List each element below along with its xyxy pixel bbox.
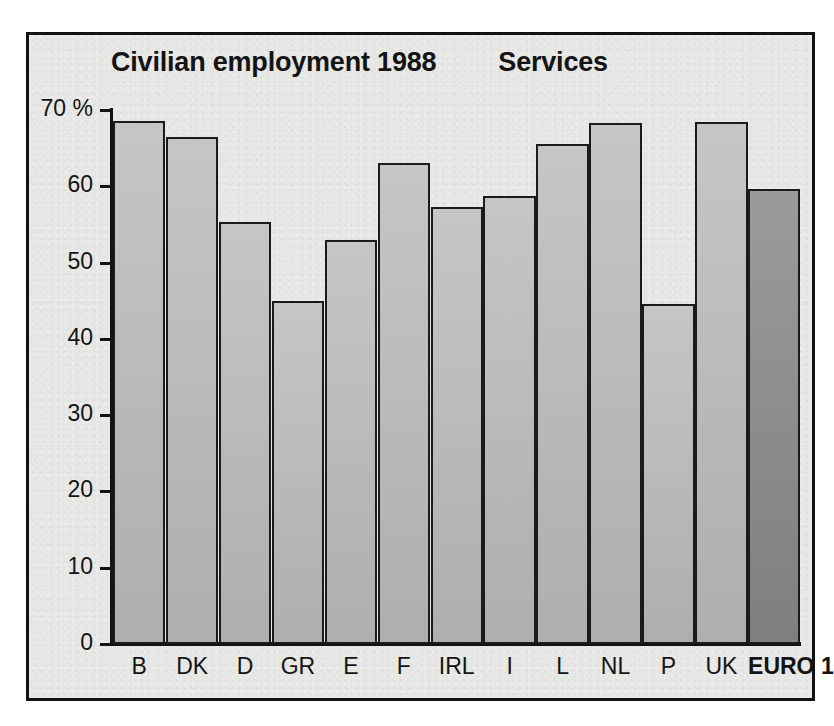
bar-uk (695, 122, 747, 644)
y-tick-label-70: 70 % (41, 95, 93, 122)
x-label-gr: GR (272, 653, 324, 680)
y-tick-label-40: 40 (67, 324, 93, 351)
x-label-l: L (536, 653, 588, 680)
y-tick-label-60: 60 (67, 171, 93, 198)
y-tick-label-50: 50 (67, 248, 93, 275)
y-tick-40: 40 (100, 338, 113, 341)
x-label-d: D (219, 653, 271, 680)
bar-irl (431, 207, 483, 644)
y-tick-30: 30 (100, 414, 113, 417)
x-label-dk: DK (166, 653, 218, 680)
y-tick-0: 0 (100, 643, 113, 646)
bar-l (536, 144, 588, 644)
bar-d (219, 222, 271, 644)
bar-nl (589, 123, 641, 644)
x-axis-category-labels: BDKDGREFIRLILNLPUKEURO 12 (113, 653, 801, 697)
bar-euro-12 (748, 189, 800, 644)
bar-i (483, 196, 535, 644)
figure-frame: Civilian employment 1988 Services 010203… (26, 32, 815, 701)
x-label-uk: UK (695, 653, 747, 680)
y-tick-10: 10 (100, 567, 113, 570)
x-label-p: P (642, 653, 694, 680)
bar-f (378, 163, 430, 644)
plot-area: 010203040506070 % BDKDGREFIRLILNLPUKEURO… (29, 35, 818, 704)
x-label-f: F (378, 653, 430, 680)
y-tick-50: 50 (100, 262, 113, 265)
x-label-e: E (325, 653, 377, 680)
y-tick-label-30: 30 (67, 400, 93, 427)
x-label-b: B (113, 653, 165, 680)
bar-e (325, 240, 377, 644)
chart-figure: Civilian employment 1988 Services 010203… (0, 0, 834, 726)
x-label-euro-12: EURO 12 (748, 653, 800, 680)
bar-b (113, 121, 165, 644)
x-label-i: I (483, 653, 535, 680)
y-tick-70: 70 % (100, 109, 113, 112)
x-label-irl: IRL (431, 653, 483, 680)
y-tick-label-10: 10 (67, 553, 93, 580)
x-label-nl: NL (589, 653, 641, 680)
bar-dk (166, 137, 218, 644)
bar-p (642, 304, 694, 644)
y-tick-label-20: 20 (67, 476, 93, 503)
y-tick-60: 60 (100, 185, 113, 188)
y-tick-label-0: 0 (80, 629, 93, 656)
bar-series (113, 35, 801, 704)
y-tick-20: 20 (100, 490, 113, 493)
bar-gr (272, 301, 324, 644)
